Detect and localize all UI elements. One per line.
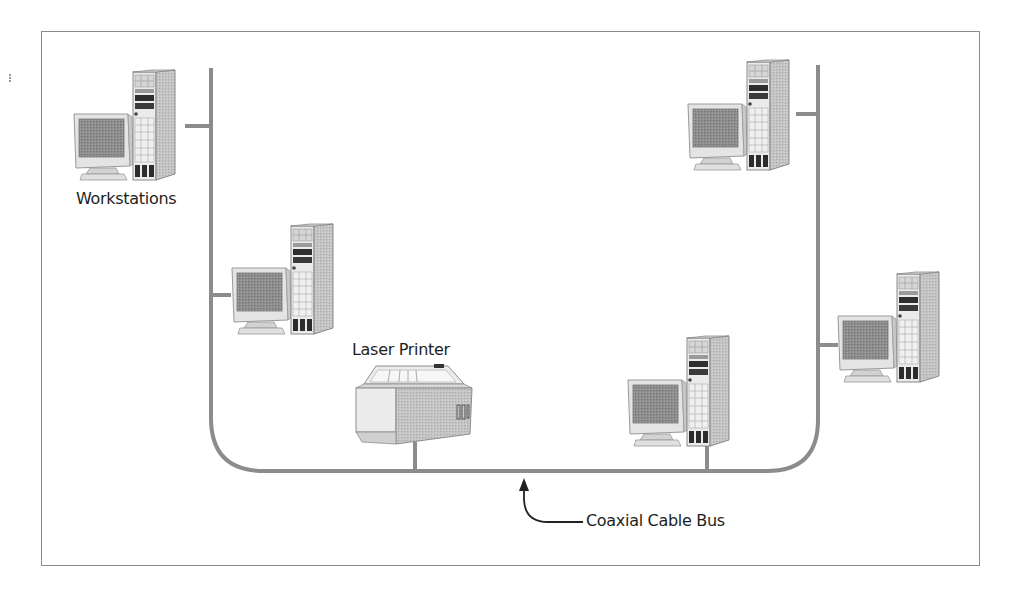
workstation-2-icon [232,224,333,334]
laser-printer-icon [356,364,472,444]
bus-topology-diagram: Workstations Laser Printer Coaxial Cable… [0,0,1013,591]
coaxial-cable-bus-label: Coaxial Cable Bus [586,511,725,530]
laser-printer-label: Laser Printer [352,340,450,359]
workstation-5-icon [838,272,939,382]
workstations-label: Workstations [76,189,176,208]
workstation-4-icon [688,60,789,170]
workstation-3-icon [628,336,729,446]
workstation-1-icon [74,70,175,180]
network-drawing [0,0,1013,591]
callout-arrow-icon [519,478,583,522]
